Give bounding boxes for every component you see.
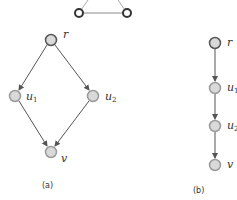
node-u2 [88,91,99,102]
label-v: v [227,158,234,171]
graph-b: r u1 u2 v (b) [193,36,237,195]
label-u1: u1 [227,81,237,95]
label-r: r [227,36,233,49]
node-v [46,147,57,158]
diagram-canvas: r u1 u2 v (a) r u1 u2 v (b) [0,0,237,200]
node-r [210,38,221,49]
graph-a: r u1 u2 v (a) [10,28,117,190]
caption-b: (b) [193,186,204,195]
node-u1 [10,91,21,102]
label-u2: u2 [105,90,117,104]
top-graph [75,0,131,17]
label-u1: u1 [26,90,38,104]
label-v: v [61,152,68,165]
node-v [210,160,221,171]
top-node-right [123,9,131,17]
top-node-left [75,9,83,17]
node-u1 [210,83,221,94]
node-r [46,35,57,46]
label-r: r [63,28,69,41]
caption-a: (a) [42,181,53,190]
label-u2: u2 [227,119,237,133]
node-u2 [210,121,221,132]
